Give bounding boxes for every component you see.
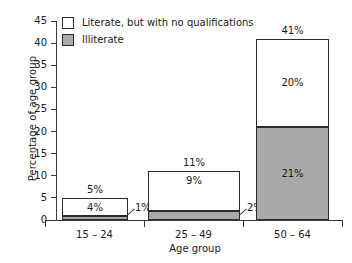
y-axis-tick-label: 20: [25, 127, 47, 137]
y-axis-tick-label: 15: [25, 149, 47, 159]
bar-segment-illiterate: [148, 211, 240, 220]
bar-total-label: 41%: [256, 25, 329, 36]
y-axis-tick: [51, 220, 56, 221]
legend: Literate, but with no qualifications Ill…: [62, 14, 254, 48]
y-axis-tick-label: 25: [25, 104, 47, 114]
x-axis-tick: [243, 221, 244, 227]
y-axis-tick-label: 40: [25, 38, 47, 48]
bar-total-label: 5%: [62, 184, 128, 195]
y-axis-tick: [51, 65, 56, 66]
bar-label-literate: 20%: [256, 77, 329, 88]
legend-label-illiterate: Illiterate: [82, 34, 124, 45]
bar-total-label: 11%: [148, 157, 240, 168]
legend-item-literate: Literate, but with no qualifications: [62, 14, 254, 31]
y-axis-tick: [51, 131, 56, 132]
bar-label-illiterate: 21%: [256, 168, 329, 179]
x-axis-label: Age group: [45, 243, 345, 254]
y-axis-tick-label: 30: [25, 82, 47, 92]
y-axis-tick-label: 0: [25, 215, 47, 225]
x-category-label-1: 25 – 49: [144, 229, 243, 240]
y-axis-tick: [51, 21, 56, 22]
y-axis-tick: [51, 153, 56, 154]
y-axis-tick: [51, 43, 56, 44]
x-category-label-2: 50 – 64: [243, 229, 342, 240]
y-axis-tick-label: 5: [25, 193, 47, 203]
bar-label-literate: 9%: [148, 175, 240, 186]
legend-swatch-illiterate: [62, 34, 74, 46]
y-axis-tick-label: 10: [25, 171, 47, 181]
legend-swatch-literate: [62, 17, 74, 29]
legend-label-literate: Literate, but with no qualifications: [82, 17, 254, 28]
y-axis-tick: [51, 87, 56, 88]
legend-item-illiterate: Illiterate: [62, 31, 254, 48]
bar-segment-illiterate: [62, 216, 128, 220]
y-axis-tick: [51, 175, 56, 176]
x-axis-tick: [45, 221, 46, 227]
x-category-label-0: 15 – 24: [45, 229, 144, 240]
bar-label-literate: 4%: [62, 202, 128, 213]
x-axis-tick: [342, 221, 343, 227]
x-axis-tick: [144, 221, 145, 227]
y-axis-tick: [51, 197, 56, 198]
y-axis-tick: [51, 109, 56, 110]
x-axis-line: [45, 220, 343, 221]
y-axis-line: [56, 21, 57, 221]
y-axis-tick-label: 35: [25, 60, 47, 70]
y-axis-label: Percentage of age group: [27, 29, 38, 209]
stacked-bar-chart: Percentage of age group 0510152025303540…: [0, 0, 352, 263]
y-axis-tick-label: 45: [25, 16, 47, 26]
